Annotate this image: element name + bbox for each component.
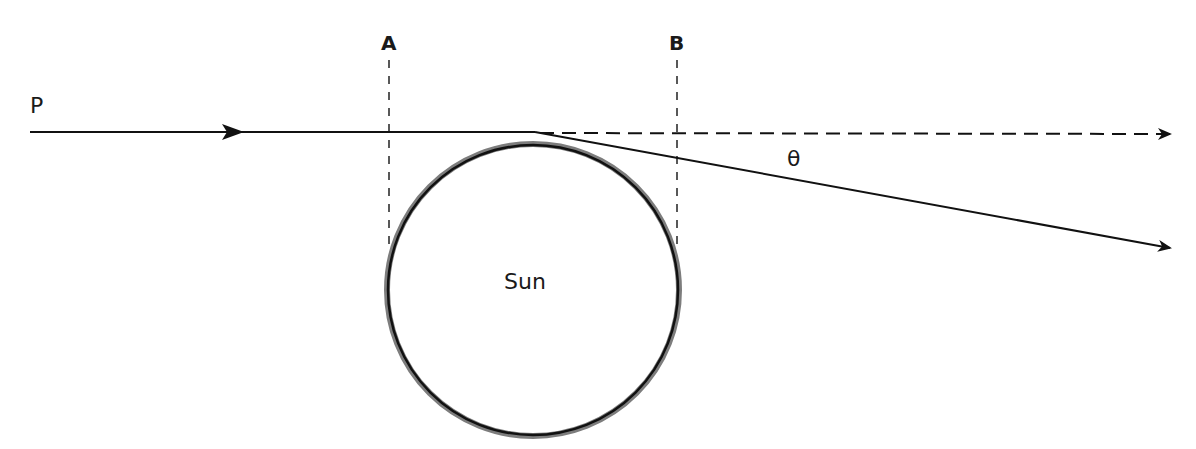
label-b: B xyxy=(669,31,684,55)
label-sun: Sun xyxy=(504,269,546,294)
light-deflection-diagram: P A B θ Sun xyxy=(0,0,1196,449)
label-a: A xyxy=(381,31,397,55)
label-p: P xyxy=(30,93,43,118)
label-theta: θ xyxy=(787,146,800,171)
undeflected-ray xyxy=(540,133,1170,134)
